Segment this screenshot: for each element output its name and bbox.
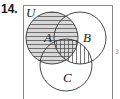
margin-mark: 3 — [115, 48, 119, 55]
label-u: U — [26, 5, 37, 20]
label-b: B — [83, 30, 91, 45]
label-a: A — [43, 30, 52, 45]
venn-diagram: U A B C — [0, 0, 120, 99]
label-c: C — [63, 70, 72, 85]
